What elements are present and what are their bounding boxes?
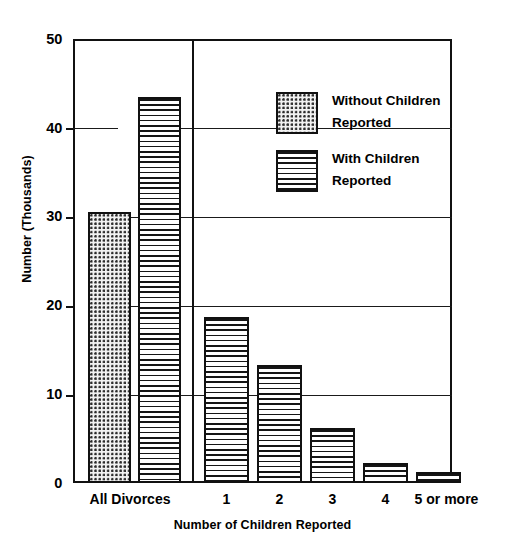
gridline-20 <box>193 306 452 307</box>
gridline-stub-40-right <box>181 128 192 129</box>
y-tick-label-20: 20 <box>26 298 62 313</box>
y-tick-label-0: 0 <box>26 476 62 491</box>
legend-label-with-children-line1: With Children <box>332 151 420 166</box>
y-tick-label-40: 40 <box>26 121 62 136</box>
gridline-stub-40 <box>73 128 118 129</box>
panel-divider <box>192 39 194 483</box>
bar-all-divorces-with-children <box>138 97 181 483</box>
x-tick-label-all-divorces: All Divorces <box>75 492 185 507</box>
bar-all-divorces-without-children <box>88 212 131 483</box>
bar-children-2 <box>257 365 302 483</box>
y-tick-mark-10 <box>66 395 73 397</box>
gridline-stub-20-panel2 <box>193 306 203 307</box>
x-tick-label-5-or-more: 5 or more <box>399 492 494 507</box>
x-axis-title: Number of Children Reported <box>73 518 452 532</box>
y-tick-label-30: 30 <box>26 209 62 224</box>
bar-children-5-or-more <box>416 472 461 483</box>
bar-children-1 <box>204 317 249 483</box>
gridline-stub-20-right <box>181 306 192 307</box>
bar-children-3 <box>310 428 355 483</box>
y-axis: Number (Thousands) 50 40 30 20 10 0 <box>0 0 62 549</box>
legend-swatch-dots <box>276 92 318 134</box>
y-tick-mark-20 <box>66 306 73 308</box>
gridline-30 <box>193 217 452 218</box>
bar-children-4 <box>363 463 408 483</box>
legend-label-with-children: With Children Reported <box>332 148 420 193</box>
bar-chart-figure: Number (Thousands) 50 40 30 20 10 0 <box>0 0 507 549</box>
legend-label-with-children-line2: Reported <box>332 170 420 192</box>
legend-swatch-stripes <box>276 150 318 192</box>
y-tick-label-10: 10 <box>26 387 62 402</box>
gridline-stub-30-right <box>181 217 192 218</box>
y-tick-mark-30 <box>66 217 73 219</box>
legend-label-without-children: Without Children Reported <box>332 90 441 135</box>
legend-label-without-children-line1: Without Children <box>332 93 441 108</box>
y-tick-mark-40 <box>66 128 73 130</box>
legend-label-without-children-line2: Reported <box>332 112 441 134</box>
y-tick-label-50: 50 <box>26 32 62 47</box>
gridline-stub-10-right <box>181 395 192 396</box>
